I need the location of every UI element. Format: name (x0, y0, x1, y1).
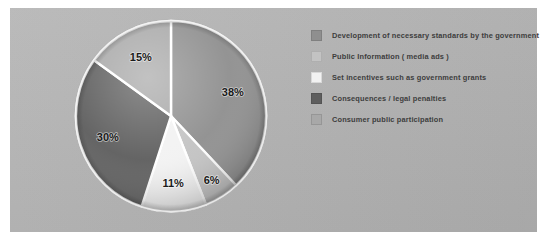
legend-swatch-icon (311, 93, 322, 104)
legend-item[interactable]: Consumer public participation (311, 109, 533, 130)
pie-svg: 38%6%11%30%15% (73, 18, 269, 214)
legend-swatch-icon (311, 51, 322, 62)
legend-item-label: Consequences / legal penalties (332, 95, 446, 102)
pie-chart: 38%6%11%30%15% (73, 18, 269, 214)
pie-slice-value-label: 6% (204, 174, 220, 186)
pie-slice-value-label: 38% (222, 86, 244, 98)
pie-slice-value-label: 11% (162, 177, 184, 189)
legend-item[interactable]: Development of necessary standards by th… (311, 25, 533, 46)
legend-item-label: Public Information ( media ads ) (332, 53, 449, 60)
legend-item[interactable]: Public Information ( media ads ) (311, 46, 533, 67)
legend-item-label: Consumer public participation (332, 116, 443, 123)
pie-slice-value-label: 30% (97, 131, 119, 143)
chart-figure: 38%6%11%30%15% Development of necessary … (0, 0, 546, 241)
legend-swatch-icon (311, 114, 322, 125)
legend-swatch-icon (311, 72, 322, 83)
legend-item[interactable]: Consequences / legal penalties (311, 88, 533, 109)
legend-item-label: Development of necessary standards by th… (332, 32, 539, 39)
chart-legend: Development of necessary standards by th… (311, 25, 533, 130)
legend-item-label: Set incentives such as government grants (332, 74, 486, 81)
chart-panel: 38%6%11%30%15% Development of necessary … (10, 8, 537, 232)
pie-slice-value-label: 15% (130, 51, 152, 63)
legend-swatch-icon (311, 30, 322, 41)
legend-item[interactable]: Set incentives such as government grants (311, 67, 533, 88)
